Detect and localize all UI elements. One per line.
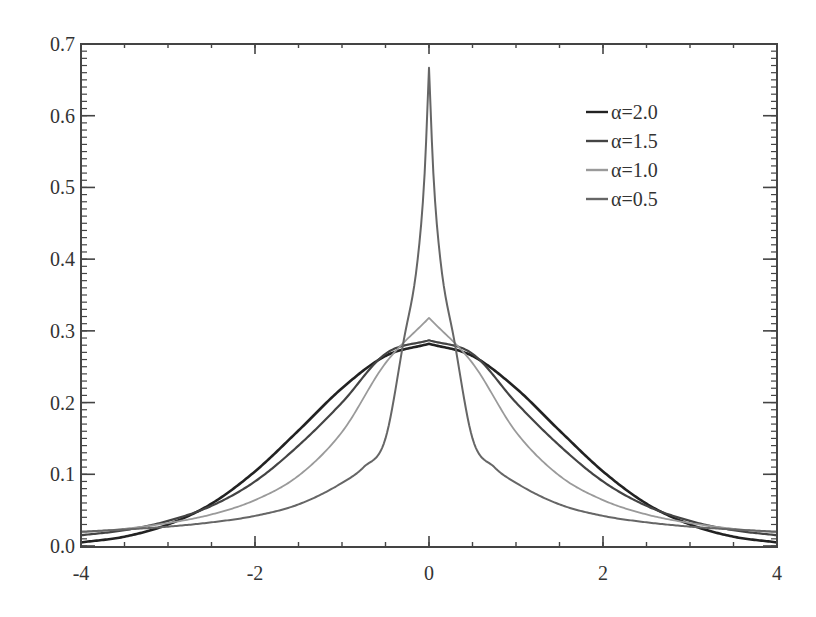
legend-label: α=2.0 [611,101,658,123]
x-tick-label: 4 [772,562,782,584]
y-tick-label: 0.2 [50,392,75,414]
minor-ticks [81,44,777,546]
y-tick-label: 0.0 [50,535,75,557]
series-line-2-0 [81,344,777,543]
y-axis-tick-labels: 0.00.10.20.30.40.50.60.7 [50,33,75,557]
y-tick-label: 0.6 [50,105,75,127]
y-tick-label: 0.1 [50,463,75,485]
x-axis-tick-labels: -4-2024 [73,562,782,584]
major-ticks [81,44,777,546]
legend: α=2.0α=1.5α=1.0α=0.5 [586,101,658,210]
y-tick-label: 0.3 [50,320,75,342]
series-line-1-0 [81,318,777,532]
y-tick-label: 0.7 [50,33,75,55]
plot-frame [81,44,777,547]
series-line-1-5 [81,340,777,535]
x-tick-label: 0 [424,562,434,584]
legend-label: α=1.5 [611,130,658,152]
legend-label: α=1.0 [611,159,658,181]
y-tick-label: 0.4 [50,248,75,270]
series-layer [81,68,777,543]
line-chart: 0.00.10.20.30.40.50.60.7 -4-2024 α=2.0α=… [0,0,816,617]
x-tick-label: -4 [73,562,90,584]
x-tick-label: 2 [598,562,608,584]
legend-label: α=0.5 [611,188,658,210]
series-line-0-5 [81,68,777,532]
x-tick-label: -2 [247,562,264,584]
y-tick-label: 0.5 [50,176,75,198]
